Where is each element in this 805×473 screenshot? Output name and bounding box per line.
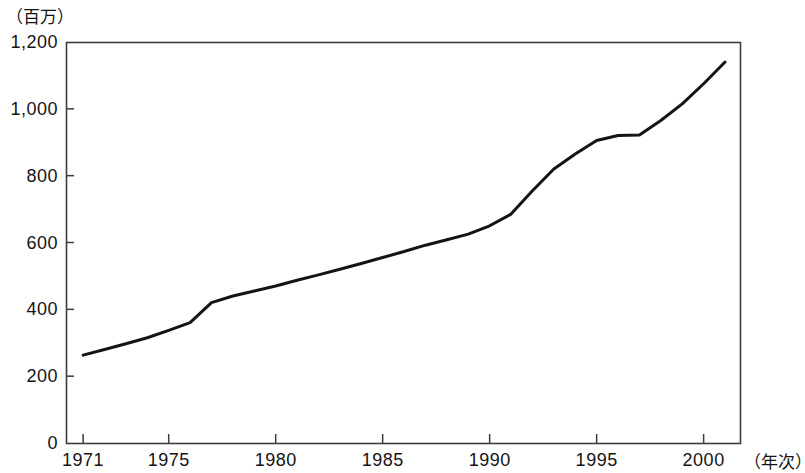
data-line-group xyxy=(83,62,725,355)
plot-frame xyxy=(67,43,741,444)
plot-border xyxy=(67,43,741,444)
data-line xyxy=(83,62,725,355)
axis-ticks xyxy=(66,109,704,443)
